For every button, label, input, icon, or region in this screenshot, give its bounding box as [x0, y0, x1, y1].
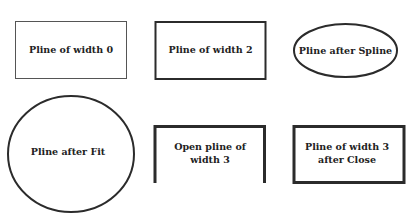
pline-after-fit-label: Pline after Fit — [31, 146, 106, 157]
pline-after-spline-label: Pline after Spline — [299, 45, 392, 56]
open-pline-width-3-shape: Open pline of width 3 — [155, 127, 265, 184]
pline-after-close-label-line-1: Pline of width 3 — [305, 141, 389, 152]
pline-after-fit-shape: Pline after Fit — [8, 96, 134, 212]
pline-width-3-after-close-shape: Pline of width 3 after Close — [294, 127, 404, 183]
pline-after-spline-shape: Pline after Spline — [294, 24, 397, 77]
open-pline-label-line-1: Open pline of — [174, 141, 247, 152]
open-pline-label-line-2: width 3 — [189, 154, 230, 165]
pline-after-close-label-line-2: after Close — [318, 154, 376, 165]
pline-width-2-label: Pline of width 2 — [169, 44, 253, 55]
pline-width-0-shape: Pline of width 0 — [16, 22, 127, 79]
pline-width-2-shape: Pline of width 2 — [156, 22, 266, 79]
polyline-diagram: Pline of width 0 Pline of width 2 Pline … — [0, 0, 414, 222]
pline-width-0-label: Pline of width 0 — [29, 44, 113, 55]
